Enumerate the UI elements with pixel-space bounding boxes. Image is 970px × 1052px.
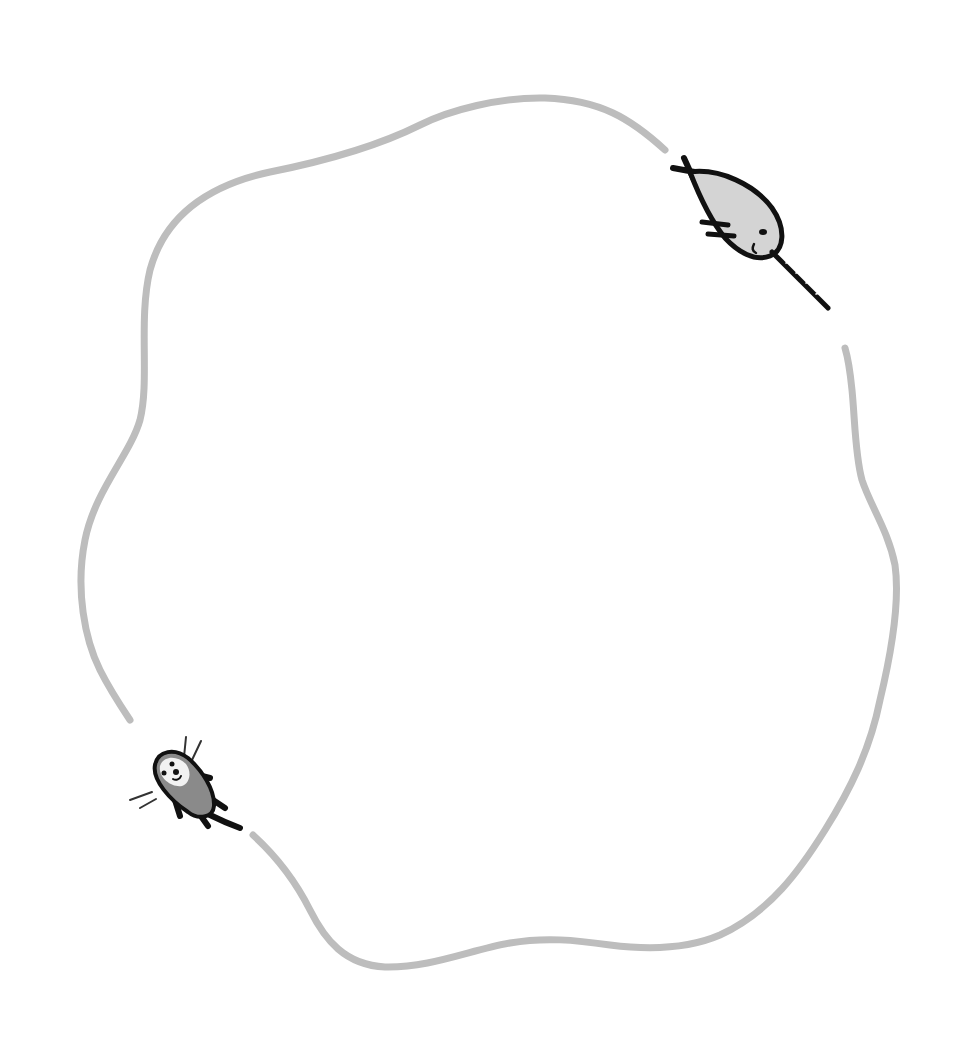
illustration-canvas — [0, 0, 970, 1052]
narwhal-icon — [673, 158, 828, 308]
sea-otter-icon — [130, 737, 240, 828]
